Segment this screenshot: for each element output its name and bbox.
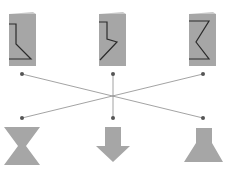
lamp-shape	[184, 128, 223, 162]
folded-card-2	[99, 12, 126, 66]
hourglass-shape	[4, 127, 40, 165]
dot-top-2[interactable]	[111, 72, 115, 76]
dot-bottom-2[interactable]	[111, 116, 115, 120]
down-arrow-shape	[96, 127, 130, 162]
matching-diagram	[0, 0, 231, 169]
folded-card-3	[189, 12, 216, 66]
dot-bottom-3[interactable]	[201, 116, 205, 120]
dot-top-3[interactable]	[201, 72, 205, 76]
folded-card-1	[9, 12, 36, 66]
dot-bottom-1[interactable]	[20, 116, 24, 120]
dot-top-1[interactable]	[20, 72, 24, 76]
